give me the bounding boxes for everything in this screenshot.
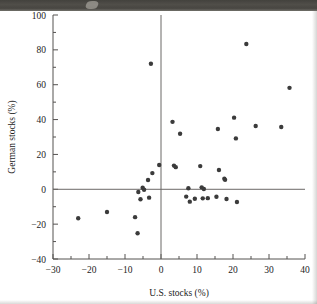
data-point xyxy=(201,196,205,200)
data-point xyxy=(133,215,137,219)
data-point xyxy=(206,196,210,200)
x-tick-label: 10 xyxy=(192,265,202,275)
data-point xyxy=(287,86,291,90)
y-tick-label: 0 xyxy=(41,185,46,195)
data-point xyxy=(198,164,202,168)
data-point xyxy=(223,178,227,182)
x-tick-label: 40 xyxy=(300,265,310,275)
x-tick-label: −20 xyxy=(82,265,97,275)
y-tick-label: 20 xyxy=(37,150,47,160)
x-tick-label: 0 xyxy=(159,265,164,275)
data-point xyxy=(146,178,150,182)
x-tick-label: 30 xyxy=(264,265,274,275)
figure-container: −30−20−10010203040 −40−20020406080100 U.… xyxy=(0,0,317,304)
x-axis-ticks xyxy=(53,254,305,259)
data-point xyxy=(135,231,139,235)
data-point xyxy=(224,197,228,201)
x-tick-label: 20 xyxy=(228,265,238,275)
data-point xyxy=(157,163,161,167)
data-point xyxy=(193,196,197,200)
data-point xyxy=(235,200,239,204)
reference-lines xyxy=(53,15,305,259)
y-tick-label: 40 xyxy=(37,115,47,125)
data-point xyxy=(138,197,142,201)
data-point xyxy=(234,136,238,140)
scatter-plot: −30−20−10010203040 −40−20020406080100 U.… xyxy=(0,0,317,304)
data-point xyxy=(279,125,283,129)
data-point xyxy=(253,124,257,128)
data-point xyxy=(150,171,154,175)
data-point xyxy=(188,199,192,203)
data-point xyxy=(216,127,220,131)
data-point xyxy=(186,186,190,190)
data-point xyxy=(178,131,182,135)
y-axis-ticks xyxy=(53,15,58,259)
y-tick-label: 80 xyxy=(37,45,47,55)
x-axis-title: U.S. stocks (%) xyxy=(149,288,209,299)
data-point xyxy=(244,42,248,46)
y-tick-label: −40 xyxy=(31,255,46,265)
y-tick-label: 60 xyxy=(37,80,47,90)
data-point xyxy=(147,195,151,199)
x-tick-label: −30 xyxy=(46,265,61,275)
data-point xyxy=(170,120,174,124)
data-point xyxy=(136,190,140,194)
data-point xyxy=(214,195,218,199)
data-point xyxy=(217,168,221,172)
y-tick-label: −20 xyxy=(31,220,46,230)
data-point xyxy=(142,188,146,192)
x-tick-label: −10 xyxy=(118,265,133,275)
data-point xyxy=(232,115,236,119)
data-point xyxy=(202,187,206,191)
data-point xyxy=(149,62,153,66)
y-tick-label: 100 xyxy=(32,11,47,21)
data-points xyxy=(76,42,292,236)
data-point xyxy=(174,165,178,169)
data-point xyxy=(105,210,109,214)
data-point xyxy=(76,216,80,220)
x-axis-tick-labels: −30−20−10010203040 xyxy=(46,265,310,275)
data-point xyxy=(184,194,188,198)
y-axis-tick-labels: −40−20020406080100 xyxy=(31,11,46,265)
axes-spines xyxy=(53,15,305,259)
y-axis-title: German stocks (%) xyxy=(7,100,18,173)
